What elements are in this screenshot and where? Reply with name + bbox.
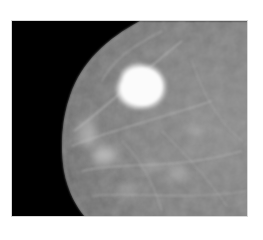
- mammogram-image: [11, 20, 248, 217]
- mammogram-render: [12, 21, 248, 217]
- dense-mass: [117, 65, 165, 109]
